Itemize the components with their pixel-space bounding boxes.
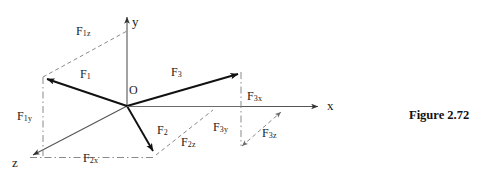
axis-label-y: y (132, 15, 139, 28)
force-vector-f2 (127, 106, 153, 151)
origin-label: O (129, 84, 138, 96)
label-f3z: F3z (262, 127, 277, 140)
label-f1z: F1z (76, 25, 91, 38)
label-f2x: F2x (83, 152, 98, 165)
z-axis (33, 106, 127, 155)
force-vector-f3 (127, 74, 238, 106)
label-f3x: F3x (247, 90, 262, 103)
force-vector-diagram (0, 0, 491, 181)
label-f3y: F3y (213, 121, 228, 134)
figure-2-72-container: F1z F1 F1y F2 F2x F2z F3 F3x F3y F3z y x… (0, 0, 491, 181)
force-vector-f1 (47, 79, 127, 106)
figure-caption: Figure 2.72 (409, 108, 469, 123)
label-f1: F1 (80, 68, 91, 81)
axis-label-x: x (327, 99, 334, 112)
label-f2z: F2z (181, 136, 196, 149)
axis-label-z: z (12, 156, 18, 169)
label-f3: F3 (171, 66, 182, 79)
label-f1y: F1y (17, 110, 32, 123)
label-f2: F2 (157, 124, 168, 137)
